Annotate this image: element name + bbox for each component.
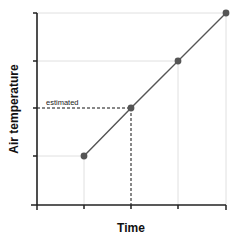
data-point	[223, 10, 230, 17]
data-point	[81, 153, 88, 160]
data-point	[128, 105, 135, 112]
data-point	[175, 58, 182, 65]
annotation-estimated: estimated	[46, 98, 79, 107]
y-axis-label: Air temperature	[7, 64, 21, 154]
line-chart: estimated Time Air temperature	[0, 0, 238, 243]
series-line	[84, 13, 226, 156]
x-axis-label: Time	[117, 221, 145, 235]
